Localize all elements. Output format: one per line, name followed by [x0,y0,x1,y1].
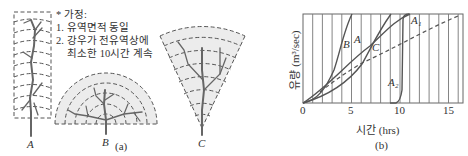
basin-c [160,27,245,135]
basin-a [14,12,51,136]
x-tick-0: 0 [300,104,306,116]
curve-label-b: B [343,38,350,50]
y-axis-label: 유량 (m³/sec) [286,20,302,100]
x-tick-5: 5 [348,104,354,116]
curve-label-c: C [372,41,379,53]
assumption-item-3: 최소한 10시간 계속 [67,47,153,60]
curve-b [303,14,352,103]
curve-a2 [390,14,409,103]
basin-b-label: B [102,136,109,148]
panel-b-caption: (b) [375,139,388,151]
assumption-item-2: 2. 강우가 전유역상에 [56,34,149,47]
curve-a [303,14,410,103]
basin-b [55,73,157,134]
assumption-item-1: 1. 유역면적 동일 [56,21,129,34]
x-tick-15: 15 [443,104,454,116]
x-axis-label: 시간 (hrs) [356,121,400,137]
curve-label-a1: A₁ [411,14,422,26]
curve-label-a2: A₂ [388,76,399,88]
curve-label-a: A [354,33,361,45]
hydrograph-chart [303,14,463,103]
assumption-title: * 가정: [56,8,87,21]
basin-c-label: C [198,137,205,149]
panel-a-caption: (a) [115,140,127,152]
basin-a-label: A [27,138,34,150]
x-tick-10: 10 [394,104,405,116]
